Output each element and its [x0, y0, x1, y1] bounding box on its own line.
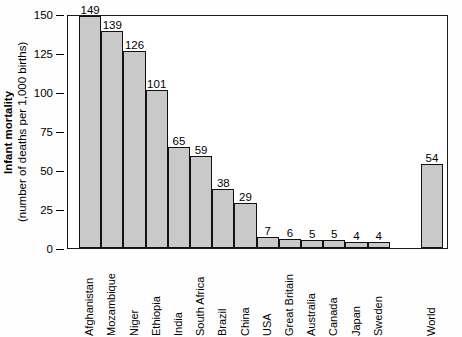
- x-axis-label: Japan: [350, 252, 362, 336]
- x-axis-label: Ethiopia: [150, 252, 162, 336]
- y-axis-tick: 25: [26, 203, 67, 217]
- x-axis-label: India: [172, 252, 184, 336]
- x-axis-label: Sweden: [372, 252, 384, 336]
- bar-value-label: 29: [232, 191, 260, 204]
- y-axis-title-main: Infant mortality: [2, 14, 14, 250]
- bar-value-label: 139: [98, 19, 126, 32]
- y-axis-tick: 0: [26, 242, 67, 256]
- y-axis-tick-label: 150: [27, 8, 53, 22]
- infant-mortality-bar-chart: Infant mortality (number of deaths per 1…: [0, 0, 462, 337]
- x-axis-label: South Africa: [194, 252, 206, 336]
- y-axis-ticks: 1501251007550250: [26, 0, 67, 337]
- y-axis-tick: 150: [26, 8, 67, 22]
- x-axis-label: USA: [261, 252, 273, 336]
- y-axis-tick: 75: [26, 125, 67, 139]
- x-axis-labels: AfghanistanMozambiqueNigerEthiopiaIndiaS…: [67, 252, 448, 337]
- x-axis-label: Brazil: [216, 252, 228, 336]
- y-axis-tick-mark: [56, 93, 64, 94]
- bar: [101, 31, 123, 248]
- y-axis-tick-mark: [56, 171, 64, 172]
- bar-value-label: 54: [418, 152, 446, 165]
- y-axis-tick-label: 25: [27, 203, 53, 217]
- x-axis-label: China: [239, 252, 251, 336]
- y-axis-tick-label: 100: [27, 86, 53, 100]
- y-axis-tick-mark: [56, 210, 64, 211]
- y-axis-tick: 125: [26, 47, 67, 61]
- bar: [301, 240, 323, 248]
- x-axis-label: Great Britain: [283, 252, 295, 336]
- x-axis-label: Afghanistan: [83, 252, 95, 336]
- y-axis-tick-mark: [56, 15, 64, 16]
- bar: [168, 147, 190, 248]
- y-axis-tick-label: 0: [27, 242, 53, 256]
- x-axis-label: World: [425, 252, 437, 336]
- bar-value-label: 101: [143, 78, 171, 91]
- x-axis-label: Mozambique: [105, 252, 117, 336]
- x-axis-label: Australia: [305, 252, 317, 336]
- y-axis-tick-mark: [56, 249, 64, 250]
- bar-value-label: 4: [365, 230, 393, 243]
- bar: [190, 156, 212, 248]
- y-axis-tick-mark: [56, 54, 64, 55]
- y-axis-tick: 100: [26, 86, 67, 100]
- bar-value-label: 59: [187, 144, 215, 157]
- y-axis-tick: 50: [26, 164, 67, 178]
- bar-value-label: 126: [121, 39, 149, 52]
- y-axis-tick-mark: [56, 132, 64, 133]
- y-axis-tick-label: 125: [27, 47, 53, 61]
- x-axis-label: Canada: [327, 252, 339, 336]
- y-axis-tick-label: 75: [27, 125, 53, 139]
- plot-area: 1491391261016559382976554454: [67, 15, 448, 249]
- bar: [146, 90, 168, 248]
- bars-layer: 1491391261016559382976554454: [68, 16, 447, 248]
- bar-value-label: 149: [76, 4, 104, 17]
- bar: [421, 164, 443, 248]
- y-axis-tick-label: 50: [27, 164, 53, 178]
- x-axis-label: Niger: [128, 252, 140, 336]
- bar-value-label: 38: [209, 177, 237, 190]
- bar: [79, 16, 101, 248]
